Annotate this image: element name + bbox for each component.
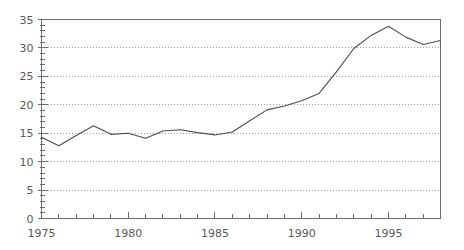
- x-tick-label: 1975: [28, 227, 56, 240]
- y-tick-label: 0: [27, 213, 34, 226]
- line-chart: 05101520253035 19751980198519901995: [0, 0, 464, 250]
- chart-background: [0, 0, 464, 250]
- chart-canvas: 05101520253035 19751980198519901995: [0, 0, 464, 250]
- x-tick-label: 1995: [374, 227, 402, 240]
- y-tick-label: 15: [20, 127, 34, 140]
- y-tick-label: 25: [20, 70, 34, 83]
- x-tick-label: 1980: [114, 227, 142, 240]
- y-tick-label: 20: [20, 99, 34, 112]
- y-tick-label: 10: [20, 156, 34, 169]
- y-tick-label: 5: [27, 184, 34, 197]
- x-tick-label: 1990: [288, 227, 316, 240]
- y-tick-label: 30: [20, 42, 34, 55]
- x-tick-label: 1985: [201, 227, 229, 240]
- y-tick-label: 35: [20, 14, 34, 27]
